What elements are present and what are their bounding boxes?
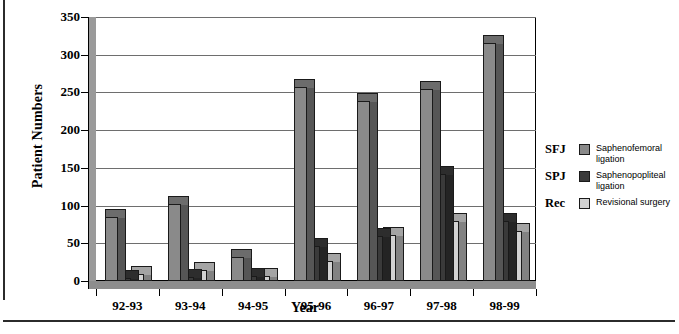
- y-axis-tick-label: 50: [40, 235, 80, 251]
- legend-item-rec: RecRevisional surgery: [545, 197, 677, 219]
- x-axis-tick: [347, 289, 348, 296]
- plot-left-wall: [88, 17, 96, 289]
- x-axis-tick: [222, 289, 223, 296]
- y-axis-tick: [81, 55, 88, 56]
- bar-side-face: [459, 213, 467, 281]
- x-axis-tick: [410, 289, 411, 296]
- legend-series-label: Saphenopoplitealligation: [596, 170, 666, 191]
- x-axis-tick-label: 96-97: [364, 298, 394, 314]
- figure: Patient Numbers Year 0501001502002503003…: [0, 0, 679, 334]
- legend: SFJSaphenofemoralligationSPJSaphenopopli…: [545, 143, 677, 224]
- bar-sfj-96-97: [357, 101, 370, 281]
- legend-key-label: Rec: [545, 197, 579, 210]
- y-axis-tick-label: 300: [40, 47, 80, 63]
- y-axis-tick: [81, 168, 88, 169]
- y-axis-tick: [81, 281, 88, 282]
- bar-side-face: [118, 209, 126, 281]
- legend-swatch-rec: [579, 198, 590, 209]
- y-axis-tick-label: 250: [40, 84, 80, 100]
- gridline: [96, 206, 536, 207]
- bar-sfj-94-95: [231, 257, 244, 281]
- gridline: [96, 92, 536, 93]
- bar-sfj-92-93: [105, 217, 118, 281]
- plot-area: 050100150200250300350 92-9393-9494-9595-…: [88, 17, 536, 289]
- bar-side-face: [496, 35, 504, 281]
- x-axis-tick-label: 93-94: [175, 298, 205, 314]
- bar-side-face: [509, 213, 517, 281]
- x-axis-tick-label: 92-93: [112, 298, 142, 314]
- page-rule-left: [3, 0, 5, 300]
- x-axis-tick-label: 94-95: [238, 298, 268, 314]
- bar-sfj-98-99: [483, 43, 496, 281]
- gridline: [96, 55, 536, 56]
- y-axis-tick: [81, 17, 88, 18]
- legend-item-spj: SPJSaphenopoplitealligation: [545, 170, 677, 192]
- bar-sfj-93-94: [168, 204, 181, 281]
- x-axis-tick: [473, 289, 474, 296]
- page-rule-bottom: [3, 320, 675, 322]
- bar-side-face: [433, 81, 441, 281]
- bar-sfj-95-96: [294, 87, 307, 281]
- y-axis-tick: [81, 130, 88, 131]
- gridline: [96, 168, 536, 169]
- x-axis-tick: [285, 289, 286, 296]
- legend-key-label: SFJ: [545, 143, 579, 156]
- gridline: [96, 130, 536, 131]
- bar-side-face: [446, 166, 454, 281]
- x-axis-tick: [536, 289, 537, 296]
- bar-side-face: [307, 79, 315, 281]
- y-axis-tick-label: 100: [40, 198, 80, 214]
- bar-side-face: [370, 93, 378, 281]
- y-axis-tick-label: 200: [40, 122, 80, 138]
- plot-floor: [88, 281, 536, 289]
- bar-side-face: [181, 196, 189, 281]
- legend-series-label: Saphenofemoralligation: [596, 143, 662, 164]
- y-axis-tick: [81, 92, 88, 93]
- y-axis-tick: [81, 206, 88, 207]
- legend-item-sfj: SFJSaphenofemoralligation: [545, 143, 677, 165]
- legend-key-label: SPJ: [545, 170, 579, 183]
- x-axis-tick-label: 98-99: [489, 298, 519, 314]
- legend-series-label: Revisional surgery: [596, 197, 670, 208]
- x-axis-tick-label: 95-96: [301, 298, 331, 314]
- y-axis-tick-label: 150: [40, 160, 80, 176]
- y-axis-tick: [81, 243, 88, 244]
- legend-swatch-spj: [579, 171, 590, 182]
- x-axis-tick-label: 97-98: [427, 298, 457, 314]
- x-axis-tick: [96, 289, 97, 296]
- bar-sfj-97-98: [420, 89, 433, 281]
- legend-swatch-sfj: [579, 144, 590, 155]
- x-axis-tick: [159, 289, 160, 296]
- gridline: [96, 17, 536, 18]
- y-axis-line: [88, 17, 89, 289]
- y-axis-tick-label: 0: [40, 273, 80, 289]
- y-axis-tick-label: 350: [40, 9, 80, 25]
